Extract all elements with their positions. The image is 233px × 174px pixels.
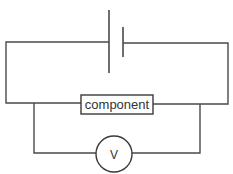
wire-top-left — [6, 42, 109, 103]
component-box: component — [81, 95, 153, 114]
circuit-diagram: component V — [0, 0, 233, 174]
voltmeter-label: V — [110, 148, 118, 162]
voltmeter-icon: V — [96, 136, 132, 172]
cell-icon — [109, 10, 123, 73]
component-label: component — [85, 97, 150, 112]
